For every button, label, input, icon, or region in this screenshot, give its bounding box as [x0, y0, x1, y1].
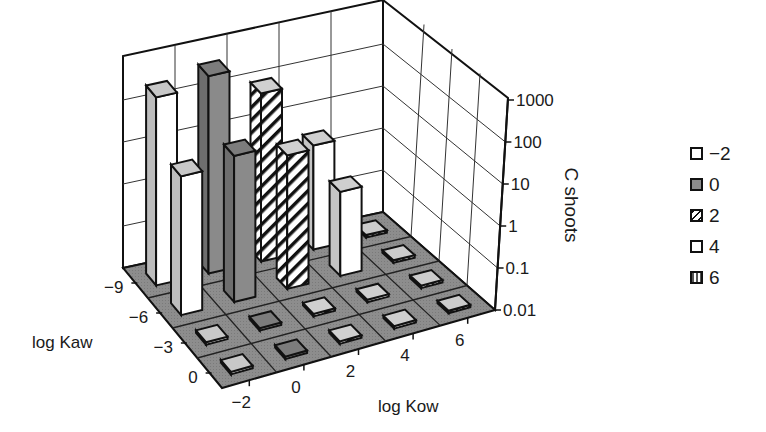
white-swatch-icon [690, 147, 703, 160]
kow-tick-label: −2 [232, 393, 251, 412]
legend-item-kow-2: 2 [690, 200, 731, 231]
kow-tick-label: 0 [291, 378, 300, 397]
bar-kow-2-kaw-6 [171, 160, 202, 316]
kow-axis-label: log Kow [378, 397, 439, 416]
hatched-swatch-icon [690, 209, 703, 222]
kaw-tick-label: 0 [188, 368, 197, 387]
striped-swatch-icon [690, 271, 703, 284]
z-axis-label: C shoots [561, 168, 582, 243]
legend: −2 0 2 4 6 [690, 138, 731, 293]
legend-item-kow-6: 6 [690, 262, 731, 293]
legend-label: 4 [709, 236, 720, 258]
kow-tick-label: 4 [400, 346, 409, 365]
kaw-tick-label: −9 [104, 278, 123, 297]
legend-label: 2 [709, 205, 720, 227]
bar-kow4-kaw-6 [330, 176, 362, 276]
z-tick-label: 100 [513, 133, 541, 152]
z-tick-label: 10 [511, 175, 530, 194]
legend-item-kow-0: 0 [690, 169, 731, 200]
legend-label: 6 [709, 267, 720, 289]
z-tick-label: 1 [508, 217, 517, 236]
gray-swatch-icon [690, 178, 703, 191]
kaw-axis-label: log Kaw [32, 333, 93, 352]
legend-item-kow-minus2: −2 [690, 138, 731, 169]
white-swatch-icon [690, 240, 703, 253]
legend-label: 0 [709, 174, 720, 196]
legend-item-kow-4: 4 [690, 231, 731, 262]
z-tick-label: 1000 [516, 91, 554, 110]
kow-tick-label: 6 [455, 331, 464, 350]
z-tick-label: 0.01 [503, 301, 536, 320]
kaw-tick-label: −6 [129, 308, 148, 327]
legend-label: −2 [709, 143, 731, 165]
kow-tick-label: 2 [346, 362, 355, 381]
bar-kow0-kaw-6 [224, 140, 256, 303]
z-tick-label: 0.1 [506, 259, 530, 278]
bar-kow2-kaw-6 [277, 140, 309, 289]
bar3d-chart: 0.010.11101001000C shoots−9−6−30log Kaw−… [0, 0, 766, 432]
kaw-tick-label: −3 [153, 338, 172, 357]
